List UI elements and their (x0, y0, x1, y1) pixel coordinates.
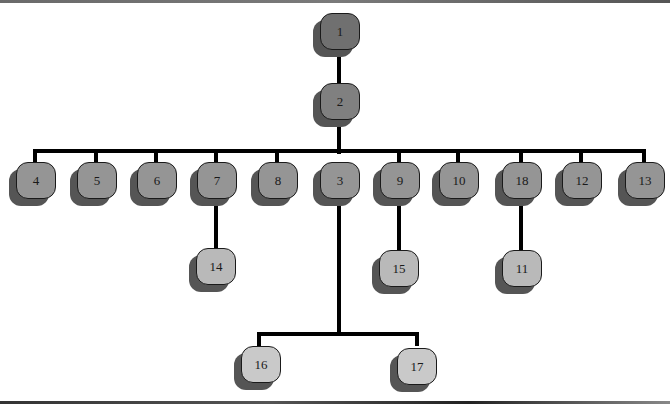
node-8[interactable]: 8 (258, 162, 298, 199)
node-4[interactable]: 4 (16, 162, 56, 199)
node-label: 5 (77, 162, 117, 199)
node-label: 17 (397, 348, 437, 385)
node-11[interactable]: 11 (502, 250, 542, 287)
node-18[interactable]: 18 (502, 162, 542, 199)
connector-3-bus (257, 332, 419, 336)
node-label: 8 (258, 162, 298, 199)
drop-7 (214, 149, 218, 163)
node-label: 3 (320, 162, 360, 199)
node-label: 6 (137, 162, 177, 199)
node-6[interactable]: 6 (137, 162, 177, 199)
node-label: 15 (379, 250, 419, 287)
node-label: 7 (197, 162, 237, 199)
node-2[interactable]: 2 (320, 83, 360, 120)
node-13[interactable]: 13 (625, 162, 665, 199)
node-7[interactable]: 7 (197, 162, 237, 199)
drop-4 (33, 149, 37, 163)
drop-5 (94, 149, 98, 163)
node-15[interactable]: 15 (379, 250, 419, 287)
node-label: 12 (562, 162, 602, 199)
node-label: 13 (625, 162, 665, 199)
drop-6 (154, 149, 158, 163)
node-3[interactable]: 3 (320, 162, 360, 199)
node-label: 4 (16, 162, 56, 199)
drop-12 (579, 149, 583, 163)
top-rule (0, 0, 670, 3)
node-1[interactable]: 1 (320, 13, 360, 50)
node-9[interactable]: 9 (380, 162, 420, 199)
node-label: 10 (439, 162, 479, 199)
drop-18 (519, 149, 523, 163)
node-14[interactable]: 14 (196, 248, 236, 285)
node-12[interactable]: 12 (562, 162, 602, 199)
drop-9 (397, 149, 401, 163)
bottom-rule (0, 401, 670, 404)
drop-8 (275, 149, 279, 163)
drop-17 (415, 332, 419, 346)
node-label: 16 (241, 346, 281, 383)
drop-13 (642, 149, 646, 163)
node-10[interactable]: 10 (439, 162, 479, 199)
node-label: 11 (502, 250, 542, 287)
node-label: 14 (196, 248, 236, 285)
node-label: 9 (380, 162, 420, 199)
node-label: 1 (320, 13, 360, 50)
drop-10 (456, 149, 460, 163)
connector-3-down (337, 196, 341, 334)
node-label: 2 (320, 83, 360, 120)
node-16[interactable]: 16 (241, 346, 281, 383)
connector-level2-bus (33, 149, 646, 153)
drop-16 (257, 332, 261, 346)
node-5[interactable]: 5 (77, 162, 117, 199)
node-17[interactable]: 17 (397, 348, 437, 385)
node-label: 18 (502, 162, 542, 199)
